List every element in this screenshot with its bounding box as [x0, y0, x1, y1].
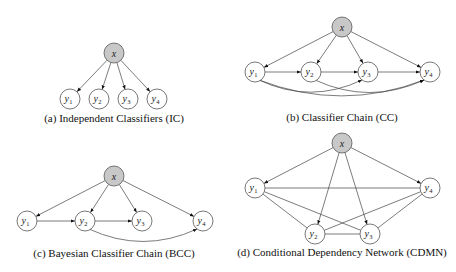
node-y4: y4 [420, 62, 440, 82]
node-x: x [332, 133, 352, 153]
node-y3: y3 [118, 89, 138, 109]
edges [36, 181, 197, 242]
edge-x-y2 [102, 63, 111, 90]
edge-x-y1 [264, 32, 333, 68]
caption-b: (b) Classifier Chain (CC) [286, 111, 398, 124]
node-y3: y3 [360, 224, 380, 244]
node-y1: y1 [245, 178, 265, 198]
node-y2: y2 [75, 211, 95, 231]
edge-x-y2 [318, 153, 339, 225]
edge-x-y2 [90, 184, 108, 212]
edge-x-y3 [117, 63, 125, 90]
node-y4: y4 [147, 89, 167, 109]
edge-x-y2 [317, 35, 337, 64]
diagram-panels: xy1y2y3y4(a) Independent Classifiers (IC… [17, 17, 447, 260]
node-y2: y2 [89, 89, 109, 109]
edge-x-y3 [119, 184, 136, 212]
svg-text:x: x [339, 138, 345, 149]
svg-text:x: x [111, 171, 117, 182]
node-x: x [332, 17, 352, 37]
edge-x-y1 [264, 148, 333, 184]
edge-x-y4 [123, 181, 194, 217]
edges [263, 148, 422, 234]
caption-d: (d) Conditional Dependency Network (CDMN… [237, 246, 447, 259]
panel-d: xy1y2y3y4(d) Conditional Dependency Netw… [237, 133, 447, 259]
edges [259, 32, 424, 96]
node-y1: y1 [245, 62, 265, 82]
panel-c: xy1y2y3y4(c) Bayesian Classifier Chain (… [17, 166, 213, 260]
edge-x-y4 [351, 148, 421, 184]
panel-a: xy1y2y3y4(a) Independent Classifiers (IC… [44, 43, 184, 125]
edge-x-y1 [36, 181, 105, 217]
node-y4: y4 [420, 178, 440, 198]
node-y3: y3 [132, 211, 152, 231]
node-y1: y1 [60, 89, 80, 109]
node-y4: y4 [193, 211, 213, 231]
node-x: x [104, 43, 124, 63]
edges [77, 60, 150, 92]
node-y2: y2 [305, 224, 325, 244]
edge-x-y4 [121, 60, 150, 91]
panel-b: xy1y2y3y4(b) Classifier Chain (CC) [245, 17, 440, 124]
svg-text:x: x [339, 22, 345, 33]
svg-text:x: x [111, 48, 117, 59]
caption-a: (a) Independent Classifiers (IC) [44, 112, 184, 125]
node-y2: y2 [301, 62, 321, 82]
node-y1: y1 [17, 211, 37, 231]
node-x: x [104, 166, 124, 186]
edge-y1-y2 [263, 194, 307, 228]
edge-x-y4 [351, 32, 421, 68]
figure-canvas: xy1y2y3y4(a) Independent Classifiers (IC… [0, 0, 456, 272]
edge-x-y3 [345, 153, 367, 225]
caption-c: (c) Bayesian Classifier Chain (BCC) [33, 247, 195, 260]
edge-x-y3 [347, 36, 363, 64]
node-y3: y3 [358, 62, 378, 82]
edge-y3-y4 [378, 194, 422, 228]
